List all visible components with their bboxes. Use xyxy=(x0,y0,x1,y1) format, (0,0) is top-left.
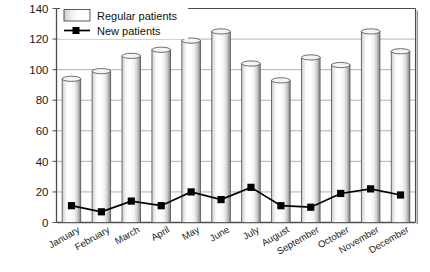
y-axis-tick-label: 100 xyxy=(29,64,48,76)
line-marker xyxy=(68,202,75,209)
chart-legend: Regular patients New patients xyxy=(60,6,188,39)
line-marker xyxy=(188,188,195,195)
bar-rect xyxy=(212,31,231,222)
bar xyxy=(152,47,171,222)
y-axis-tick-label: 40 xyxy=(36,156,49,168)
y-axis-tick-label: 80 xyxy=(36,94,49,106)
bar-rect xyxy=(242,64,261,223)
bar-top-cap xyxy=(152,47,171,52)
bar-top-cap xyxy=(212,29,231,34)
bar-rect xyxy=(152,50,171,223)
line-marker xyxy=(98,208,105,215)
bar xyxy=(331,62,350,222)
patients-chart: 020406080100120140 JanuaryFebruaryMarchA… xyxy=(0,0,430,272)
bar-rect xyxy=(92,71,111,222)
bar-top-cap xyxy=(62,76,81,81)
legend-marker-new-patients xyxy=(73,27,80,34)
legend-label-regular-patients: Regular patients xyxy=(97,10,178,22)
bar-top-cap xyxy=(122,53,141,58)
bar-rect xyxy=(62,79,81,223)
y-axis-tick-label: 60 xyxy=(36,125,49,137)
line-marker xyxy=(217,196,224,203)
bar xyxy=(92,69,111,223)
line-marker xyxy=(397,191,404,198)
bar-top-cap xyxy=(242,61,261,66)
y-axis-tick-label: 140 xyxy=(29,3,48,15)
bar-top-cap xyxy=(391,49,410,54)
y-axis-tick-label: 20 xyxy=(36,186,49,198)
bar xyxy=(361,29,380,223)
legend-swatch-regular-patients xyxy=(64,10,90,22)
line-marker xyxy=(337,190,344,197)
bar xyxy=(302,55,321,223)
bar-top-cap xyxy=(302,55,321,60)
bar xyxy=(212,29,231,223)
bar-top-cap xyxy=(361,29,380,34)
line-marker xyxy=(367,185,374,192)
line-marker xyxy=(277,202,284,209)
y-axis-tick-label: 0 xyxy=(42,217,48,229)
bar-top-cap xyxy=(272,78,291,83)
line-marker xyxy=(307,204,314,211)
bar-rect xyxy=(302,57,321,222)
bar xyxy=(242,61,261,223)
y-axis-tick-label: 120 xyxy=(29,33,48,45)
bar xyxy=(122,53,141,222)
line-marker xyxy=(158,202,165,209)
bar-top-cap xyxy=(92,69,111,74)
bar-top-cap xyxy=(331,62,350,67)
bar-rect xyxy=(361,31,380,222)
bar-rect xyxy=(331,65,350,222)
bar xyxy=(62,76,81,222)
chart-container: 020406080100120140 JanuaryFebruaryMarchA… xyxy=(0,0,430,272)
line-marker xyxy=(128,198,135,205)
line-marker xyxy=(247,184,254,191)
legend-label-new-patients: New patients xyxy=(97,25,161,37)
